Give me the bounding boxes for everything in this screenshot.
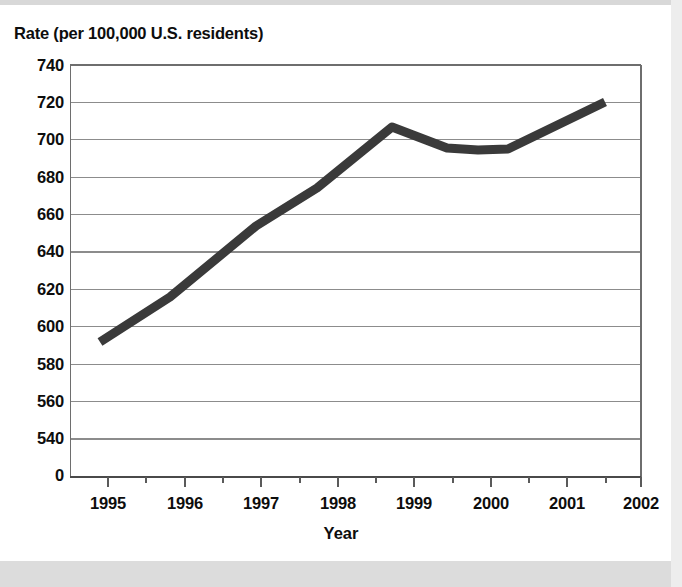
x-tick-label-1998: 1998: [303, 494, 373, 513]
x-tick-label-1997: 1997: [226, 494, 296, 513]
plot-area-wrapper: 740 720 700 680 660 640 620 600 580 560 …: [0, 0, 682, 587]
chart-figure: Rate (per 100,000 U.S. residents) 740 72…: [0, 0, 682, 587]
x-tick-label-1995: 1995: [73, 494, 143, 513]
x-tick-label-1999: 1999: [379, 494, 449, 513]
x-tick-label-2002: 2002: [606, 494, 676, 513]
x-tick-label-2001: 2001: [532, 494, 602, 513]
x-axis-ticks: [108, 477, 641, 487]
x-axis-title: Year: [0, 524, 682, 543]
x-tick-label-1996: 1996: [150, 494, 220, 513]
data-series-rate: [100, 102, 605, 342]
x-tick-label-2000: 2000: [456, 494, 526, 513]
